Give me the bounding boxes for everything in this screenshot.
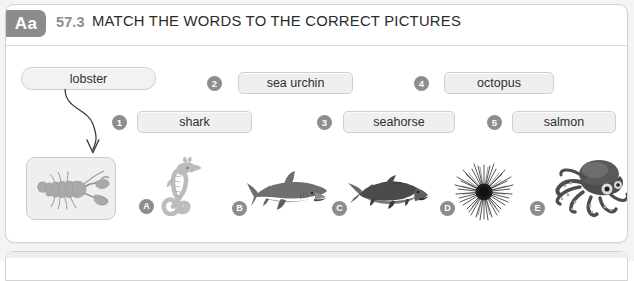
word-pill-2[interactable]: sea urchin xyxy=(238,72,353,94)
exercise-header: Aa 57.3 MATCH THE WORDS TO THE CORRECT P… xyxy=(6,5,627,47)
word-pill-example[interactable]: lobster xyxy=(21,67,156,90)
picture-shark xyxy=(244,169,330,213)
page-title: MATCH THE WORDS TO THE CORRECT PICTURES xyxy=(92,13,461,29)
picture-octopus xyxy=(542,155,628,221)
next-exercise-card xyxy=(5,251,628,281)
word-pill-5[interactable]: salmon xyxy=(512,111,616,133)
word-pill-1[interactable]: shark xyxy=(137,111,252,133)
number-badge-2: 2 xyxy=(207,76,222,91)
exercise-card: Aa 57.3 MATCH THE WORDS TO THE CORRECT P… xyxy=(5,4,628,243)
picture-lobster xyxy=(27,158,116,220)
number-badge-1: 1 xyxy=(112,115,127,130)
header-divider xyxy=(6,45,627,46)
number-badge-3: 3 xyxy=(317,115,332,130)
picture-seahorse xyxy=(151,155,207,217)
word-pill-4[interactable]: octopus xyxy=(444,72,554,94)
number-badge-5: 5 xyxy=(487,115,502,130)
example-picture-frame xyxy=(26,157,116,220)
exercise-number: 57.3 xyxy=(56,14,85,30)
picture-salmon xyxy=(344,171,432,213)
word-pill-3[interactable]: seahorse xyxy=(343,111,455,133)
picture-sea-urchin xyxy=(452,163,516,221)
next-card-strip xyxy=(6,252,627,258)
number-badge-4: 4 xyxy=(414,76,429,91)
aa-icon: Aa xyxy=(5,10,46,37)
